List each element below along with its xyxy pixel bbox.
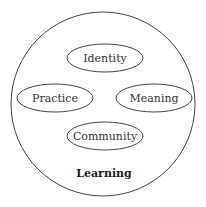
node-practice: Practice: [17, 84, 93, 112]
node-identity-label: Identity: [83, 52, 127, 65]
node-community: Community: [67, 122, 143, 150]
container-label: Learning: [76, 167, 132, 180]
node-meaning-label: Meaning: [129, 92, 178, 105]
node-practice-label: Practice: [32, 92, 78, 105]
node-identity: Identity: [67, 44, 143, 72]
node-meaning: Meaning: [116, 84, 192, 112]
learning-diagram: Identity Practice Meaning Community Lear…: [0, 0, 206, 207]
node-community-label: Community: [73, 130, 138, 143]
